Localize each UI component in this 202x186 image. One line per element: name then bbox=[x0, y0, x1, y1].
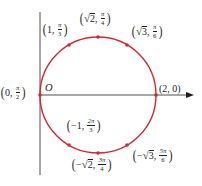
fraction-denominator: 6 bbox=[153, 32, 156, 39]
origin-label: O bbox=[45, 83, 53, 94]
label-sqrt3-pi6: ( √ 3 , π 6 ) bbox=[131, 24, 163, 39]
open-paren: ( bbox=[80, 11, 84, 26]
label-sqrt2-pi4: ( √ 2 , π 4 ) bbox=[79, 11, 111, 26]
close-paren: ) bbox=[21, 85, 25, 100]
point-sqrt3-pi6 bbox=[125, 43, 129, 47]
sqrt-expression: √ 3 bbox=[143, 150, 154, 162]
sqrt-expression: √ 3 bbox=[136, 26, 147, 38]
label-negsqrt3-5pi6: ( − √ 3 , 5π 6 ) bbox=[132, 148, 173, 163]
label-neg1-2pi3: ( −1 , 2π 3 ) bbox=[66, 118, 101, 133]
label-comma: , bbox=[93, 160, 96, 170]
fraction-numerator: 5π bbox=[159, 148, 167, 156]
close-paren: ) bbox=[106, 11, 110, 26]
theta-fraction: π 4 bbox=[101, 11, 105, 26]
label-0-pi2: ( 0 , π 2 ) bbox=[0, 85, 26, 100]
label-1-pi3: ( 1 , π 3 ) bbox=[42, 22, 68, 37]
close-paren: ) bbox=[63, 22, 67, 37]
label-r: −1 bbox=[71, 121, 82, 131]
point-negsqrt2-3pi4 bbox=[96, 151, 100, 155]
label-comma: , bbox=[52, 25, 55, 35]
label-comma: , bbox=[82, 121, 85, 131]
close-paren: ) bbox=[168, 148, 172, 163]
label-2-0: (2, 0) bbox=[159, 84, 181, 94]
polar-axis-arrow-icon bbox=[186, 92, 194, 98]
point-2-0 bbox=[154, 93, 158, 97]
sqrt-expression: √ 2 bbox=[82, 159, 93, 171]
theta-fraction: 2π 3 bbox=[87, 118, 95, 133]
theta-fraction: 3π 4 bbox=[98, 157, 106, 172]
fraction-denominator: 3 bbox=[58, 30, 61, 37]
close-paren: ) bbox=[96, 118, 100, 133]
fraction-denominator: 2 bbox=[16, 93, 19, 100]
open-paren: ( bbox=[72, 157, 76, 172]
open-paren: ( bbox=[1, 85, 5, 100]
label-negsqrt2-3pi4: ( − √ 2 , 3π 4 ) bbox=[71, 157, 112, 172]
fraction-numerator: π bbox=[101, 11, 105, 19]
label-comma: , bbox=[95, 14, 98, 24]
theta-fraction: π 6 bbox=[153, 24, 157, 39]
fraction-numerator: π bbox=[153, 24, 157, 32]
point-neg1-2pi3 bbox=[67, 143, 71, 147]
fraction-denominator: 4 bbox=[101, 19, 104, 26]
fraction-denominator: 4 bbox=[100, 165, 103, 172]
label-comma: , bbox=[154, 151, 157, 161]
label-comma: , bbox=[10, 88, 13, 98]
close-paren: ) bbox=[158, 24, 162, 39]
open-paren: ( bbox=[133, 148, 137, 163]
point-1-pi3 bbox=[67, 43, 71, 47]
point-sqrt2-pi4 bbox=[96, 35, 100, 39]
theta-fraction: π 3 bbox=[58, 22, 62, 37]
open-paren: ( bbox=[43, 22, 47, 37]
point-negsqrt3-5pi6 bbox=[125, 143, 129, 147]
open-paren: ( bbox=[67, 118, 71, 133]
fraction-numerator: 3π bbox=[98, 157, 106, 165]
open-paren: ( bbox=[132, 24, 136, 39]
point-0-pi2 bbox=[38, 93, 42, 97]
theta-fraction: 5π 6 bbox=[159, 148, 167, 163]
fraction-numerator: π bbox=[58, 22, 62, 30]
close-paren: ) bbox=[107, 157, 111, 172]
fraction-numerator: 2π bbox=[87, 118, 95, 126]
fraction-denominator: 6 bbox=[161, 156, 164, 163]
fraction-numerator: π bbox=[16, 85, 20, 93]
sqrt-expression: √ 2 bbox=[84, 13, 95, 25]
theta-fraction: π 2 bbox=[16, 85, 20, 100]
fraction-denominator: 3 bbox=[89, 126, 92, 133]
label-comma: , bbox=[147, 27, 150, 37]
